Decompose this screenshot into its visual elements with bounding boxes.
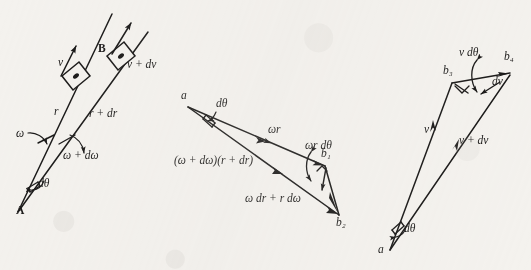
middle-point-a-label: a [181,90,187,102]
figure-canvas: A B v v + dv r r + dr ω ω + dω dθ a dθ ω… [0,0,531,270]
left-omega-plus-domega-label: ω + dω [63,150,99,162]
left-velocity-v-label: v [58,57,63,69]
left-point-a-label: A [16,205,24,217]
right-point-b3-label: b₃ [443,65,453,77]
right-v-dtheta-label: v dθ [459,47,478,59]
middle-omega-dr-r-domega-label: ω dr + r dω [245,193,301,205]
left-dtheta-label: dθ [38,178,49,190]
right-dv-label: dv [492,76,503,88]
left-omega-label: ω [16,128,24,140]
right-v-label: v [424,124,429,136]
middle-point-b1-label: b₁ [321,148,331,160]
left-radius-r-plus-dr-label: r + dr [89,108,117,120]
middle-dtheta-label: dθ [216,98,227,110]
middle-long-side-label: (ω + dω)(r + dr) [174,155,253,167]
middle-omega-r-label: ωr [268,124,281,136]
right-v-plus-dv-label: v + dv [459,135,488,147]
right-dtheta-label: dθ [404,223,415,235]
figure-linework [0,0,531,270]
right-point-b4-label: b₄ [504,51,514,63]
middle-point-b2-label: b₂ [336,217,346,229]
left-radius-r-label: r [54,106,58,118]
right-point-a-label: a [378,244,384,256]
left-point-b-label: B [98,43,106,55]
left-velocity-v-plus-dv-label: v + dv [127,59,156,71]
